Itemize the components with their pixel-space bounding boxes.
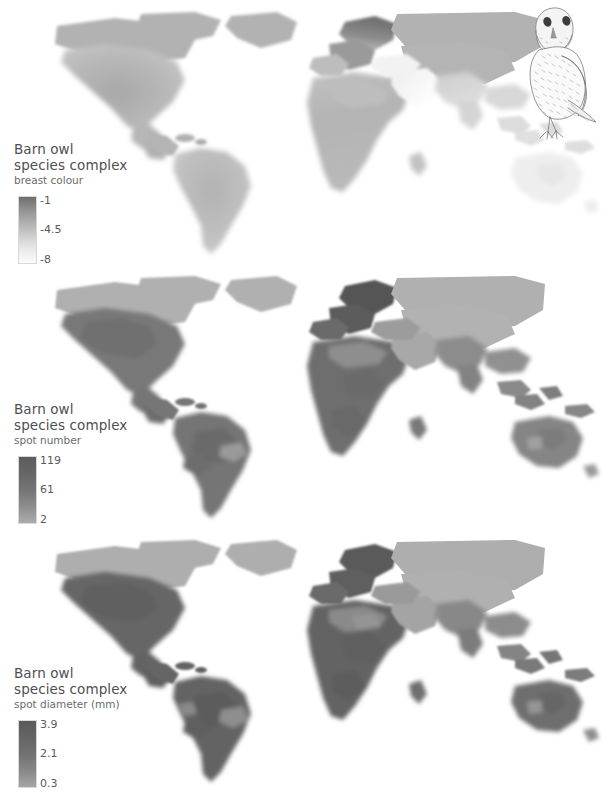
colorbar-tick-mid: -4.5 xyxy=(40,224,61,235)
legend-subtitle: spot number xyxy=(14,434,144,447)
colorbar-tick-low: 0.3 xyxy=(40,778,58,789)
barn-owl-illustration xyxy=(506,2,602,142)
figure-root: Barn owl species complex breast colour -… xyxy=(0,0,607,793)
legend-title-line1: Barn owl xyxy=(14,402,144,418)
legend-spot-diameter: Barn owl species complex spot diameter (… xyxy=(14,666,144,786)
colorbar-gradient xyxy=(18,196,37,264)
colorbar-tick-mid: 2.1 xyxy=(40,748,58,759)
legend-breast-colour: Barn owl species complex breast colour -… xyxy=(14,142,144,262)
colorbar-tick-high: 3.9 xyxy=(40,719,58,730)
legend-spot-number: Barn owl species complex spot number 119… xyxy=(14,402,144,522)
legend-title-line2: species complex xyxy=(14,418,144,434)
map-panel-spot-number: Barn owl species complex spot number 119… xyxy=(0,264,607,528)
colorbar-tick-low: 2 xyxy=(40,514,47,525)
colorbar-tick-high: -1 xyxy=(40,195,51,206)
colorbar-wrap: -1 -4.5 -8 xyxy=(14,196,134,262)
colorbar-gradient xyxy=(18,720,37,788)
map-panel-spot-diameter: Barn owl species complex spot diameter (… xyxy=(0,528,607,792)
map-panel-breast-colour: Barn owl species complex breast colour -… xyxy=(0,0,607,264)
legend-subtitle: spot diameter (mm) xyxy=(14,698,144,711)
colorbar-wrap: 3.9 2.1 0.3 xyxy=(14,720,134,786)
colorbar-wrap: 119 61 2 xyxy=(14,456,134,522)
colorbar-gradient xyxy=(18,456,37,524)
legend-subtitle: breast colour xyxy=(14,174,144,187)
legend-title-line2: species complex xyxy=(14,682,144,698)
legend-title-line1: Barn owl xyxy=(14,666,144,682)
colorbar-tick-high: 119 xyxy=(40,455,61,466)
legend-title-line1: Barn owl xyxy=(14,142,144,158)
legend-title-line2: species complex xyxy=(14,158,144,174)
colorbar-tick-mid: 61 xyxy=(40,484,54,495)
